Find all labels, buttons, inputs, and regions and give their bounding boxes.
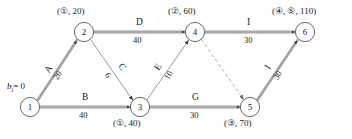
node-2-annotation: (①, 20) — [57, 6, 85, 16]
edge-G-duration: 30 — [190, 110, 199, 120]
edge-B-duration: 40 — [79, 110, 88, 120]
edge-H-name: I — [247, 17, 250, 27]
edge-D-duration: 40 — [133, 35, 142, 45]
edge-D-name: D — [136, 17, 143, 27]
edge-B-name: B — [82, 92, 88, 102]
edge-G-name: G — [192, 92, 199, 102]
node-5-annotation: (③, 70) — [224, 118, 252, 128]
node-4-label: 4 — [186, 23, 204, 41]
node-2-label: 2 — [75, 23, 93, 41]
node-6-label: 6 — [296, 23, 314, 41]
node-3-label: 3 — [131, 98, 149, 116]
node-6-annotation: (④, ⑤, 110) — [272, 6, 316, 16]
edge-dummy-line — [202, 40, 244, 100]
node-3-annotation: (①, 40) — [113, 118, 141, 128]
edge-C-line — [91, 40, 133, 101]
node-1-label: 1 — [21, 98, 39, 116]
node-5-label: 5 — [241, 98, 259, 116]
network-diagram: 1 2 3 4 5 6 (①, 20) (②, 60) (④, ⑤, 110) … — [0, 0, 352, 139]
edge-H-duration: 30 — [244, 35, 253, 45]
b-value: = 0 — [13, 81, 25, 91]
node-4-annotation: (②, 60) — [168, 6, 196, 16]
start-node-b-label: bi= 0 — [7, 81, 25, 93]
